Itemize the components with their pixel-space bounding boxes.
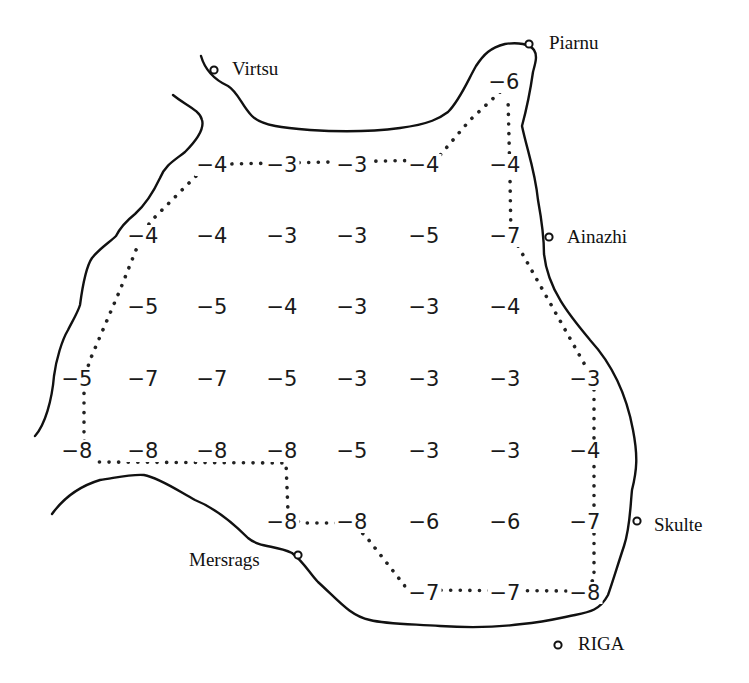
grid-value: −8 [60, 440, 95, 462]
grid-value: −7 [407, 582, 442, 604]
grid-value: −3 [265, 154, 300, 176]
grid-value: −4 [488, 296, 523, 318]
grid-value: −4 [568, 440, 603, 462]
town-marker-piarnu [525, 40, 532, 47]
grid-value: −5 [265, 368, 300, 390]
map-canvas [0, 0, 749, 683]
grid-value: −4 [195, 225, 230, 247]
grid-value: −4 [488, 154, 523, 176]
grid-value: −8 [265, 440, 300, 462]
grid-value: −8 [265, 511, 300, 533]
grid-value: −6 [487, 71, 522, 93]
grid-value: −5 [60, 368, 95, 390]
grid-value: −3 [265, 225, 300, 247]
town-marker-skulte [633, 517, 640, 524]
grid-value: −8 [195, 440, 230, 462]
grid-value: −4 [407, 154, 442, 176]
grid-value: −3 [335, 296, 370, 318]
grid-value: −6 [488, 511, 523, 533]
grid-value: −8 [335, 511, 370, 533]
grid-value: −3 [335, 225, 370, 247]
town-marker-riga [554, 641, 561, 648]
town-label-mersrags: Mersrags [189, 550, 260, 570]
grid-value: −5 [335, 440, 370, 462]
grid-value: −7 [195, 368, 230, 390]
grid-value: −4 [126, 225, 161, 247]
grid-value: −6 [407, 511, 442, 533]
town-marker-virtsu [210, 66, 217, 73]
grid-value: −3 [488, 440, 523, 462]
grid-value: −8 [126, 440, 161, 462]
grid-value: −3 [568, 368, 603, 390]
grid-value: −8 [568, 582, 603, 604]
town-label-piarnu: Piarnu [549, 33, 599, 53]
grid-value: −3 [407, 440, 442, 462]
grid-value: −4 [265, 296, 300, 318]
town-label-riga: RIGA [578, 634, 624, 654]
grid-value: −5 [195, 296, 230, 318]
town-label-virtsu: Virtsu [232, 59, 278, 79]
town-marker-ainazhi [545, 233, 552, 240]
coastline-north-east [52, 43, 636, 627]
grid-value: −7 [488, 582, 523, 604]
town-label-skulte: Skulte [654, 515, 703, 535]
grid-value: −3 [407, 368, 442, 390]
grid-value: −5 [126, 296, 161, 318]
town-label-ainazhi: Ainazhi [567, 227, 627, 247]
grid-value: −3 [407, 296, 442, 318]
grid-value: −5 [407, 225, 442, 247]
grid-value: −7 [126, 368, 161, 390]
grid-value: −3 [335, 368, 370, 390]
grid-value: −3 [488, 368, 523, 390]
town-marker-mersrags [294, 551, 301, 558]
grid-value: −3 [335, 154, 370, 176]
grid-value: −7 [488, 225, 523, 247]
grid-value: −7 [568, 511, 603, 533]
grid-value: −4 [195, 154, 230, 176]
